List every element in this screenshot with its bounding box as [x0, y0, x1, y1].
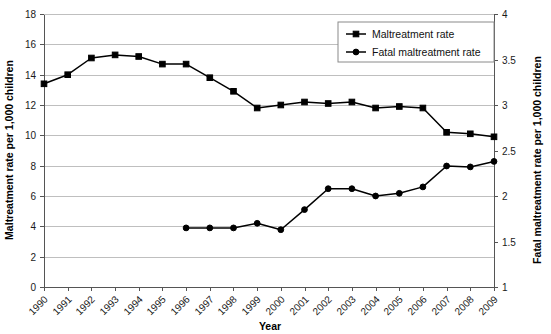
- y-tick-label: 4: [30, 221, 36, 232]
- data-point-marker: [325, 186, 331, 192]
- y-tick-label: 14: [25, 70, 37, 81]
- x-tick-label: 2002: [310, 293, 334, 317]
- y-tick-label: 8: [30, 161, 36, 172]
- data-point-marker: [373, 193, 379, 199]
- x-axis-title: Year: [259, 320, 281, 332]
- x-axis-ticks: 1990199119921993199419951996199719981999…: [26, 287, 500, 317]
- data-point-marker: [491, 134, 497, 140]
- y-tick-label: 18: [25, 9, 37, 20]
- legend-marker-circle: [353, 49, 359, 55]
- data-point-marker: [183, 61, 189, 67]
- y-axis-title: Maltreatment rate per 1,000 children: [3, 60, 15, 240]
- data-point-marker: [349, 186, 355, 192]
- x-tick-label: 2000: [263, 293, 287, 317]
- data-point-marker: [420, 105, 426, 111]
- legend-marker-square: [353, 31, 359, 37]
- chart-container: 024681012141618 11.522.533.54 1990199119…: [0, 0, 551, 334]
- data-point-marker: [491, 159, 497, 165]
- legend-label: Maltreatment rate: [372, 28, 454, 40]
- data-point-marker: [396, 190, 402, 196]
- data-series: [41, 52, 497, 233]
- data-point-marker: [112, 52, 118, 58]
- y2-tick-label: 2.5: [502, 146, 516, 157]
- data-point-marker: [254, 220, 260, 226]
- data-point-marker: [183, 225, 189, 231]
- y2-tick-label: 3.5: [502, 55, 516, 66]
- data-point-marker: [231, 225, 237, 231]
- data-point-marker: [207, 225, 213, 231]
- y-tick-label: 2: [30, 252, 36, 263]
- x-tick-label: 2007: [429, 293, 453, 317]
- data-point-marker: [420, 184, 426, 190]
- series-line-1: [44, 55, 494, 137]
- x-tick-label: 2008: [452, 293, 476, 317]
- x-tick-label: 2001: [287, 293, 311, 317]
- line-chart: 024681012141618 11.522.533.54 1990199119…: [0, 0, 551, 334]
- data-point-marker: [65, 72, 71, 78]
- y2-axis-title: Fatal maltreatment rate per 1,000 childr…: [531, 56, 543, 264]
- data-point-marker: [468, 131, 474, 137]
- x-tick-label: 1998: [215, 293, 239, 317]
- y2-tick-label: 1: [502, 282, 508, 293]
- series-line-2: [186, 161, 494, 229]
- data-point-marker: [397, 104, 403, 110]
- x-tick-label: 1993: [97, 293, 121, 317]
- data-point-marker: [302, 207, 308, 213]
- y2-tick-label: 3: [502, 100, 508, 111]
- data-point-marker: [89, 55, 95, 61]
- data-point-marker: [444, 130, 450, 136]
- y-tick-label: 10: [25, 130, 37, 141]
- data-point-marker: [325, 101, 331, 107]
- x-tick-label: 1999: [239, 293, 263, 317]
- data-point-marker: [231, 89, 237, 95]
- data-point-marker: [278, 102, 284, 108]
- data-point-marker: [207, 75, 213, 81]
- data-point-marker: [444, 163, 450, 169]
- x-tick-label: 2004: [358, 293, 382, 317]
- x-tick-label: 1994: [121, 293, 145, 317]
- legend-label: Fatal maltreatment rate: [372, 46, 481, 58]
- y2-axis-ticks: 11.522.533.54: [494, 9, 516, 293]
- y-tick-label: 12: [25, 100, 37, 111]
- data-point-marker: [278, 227, 284, 233]
- data-point-marker: [254, 105, 260, 111]
- data-point-marker: [160, 61, 166, 67]
- data-point-marker: [373, 105, 379, 111]
- x-tick-label: 1996: [168, 293, 192, 317]
- data-point-marker: [41, 81, 47, 87]
- data-point-marker: [136, 54, 142, 60]
- x-tick-label: 2009: [476, 293, 500, 317]
- x-tick-label: 2003: [334, 293, 358, 317]
- x-tick-label: 1992: [73, 293, 97, 317]
- data-point-marker: [349, 99, 355, 105]
- y2-tick-label: 1.5: [502, 237, 516, 248]
- x-tick-label: 1991: [50, 293, 74, 317]
- x-tick-label: 1990: [26, 293, 50, 317]
- data-point-marker: [302, 99, 308, 105]
- chart-legend: Maltreatment rateFatal maltreatment rate: [338, 22, 494, 62]
- data-point-marker: [467, 164, 473, 170]
- y2-tick-label: 4: [502, 9, 508, 20]
- x-tick-label: 1995: [144, 293, 168, 317]
- y2-tick-label: 2: [502, 191, 508, 202]
- x-tick-label: 2006: [405, 293, 429, 317]
- y-tick-label: 16: [25, 39, 37, 50]
- y-tick-label: 0: [30, 282, 36, 293]
- x-tick-label: 2005: [381, 293, 405, 317]
- y-axis-ticks: 024681012141618: [25, 9, 44, 293]
- x-tick-label: 1997: [192, 293, 216, 317]
- y-tick-label: 6: [30, 191, 36, 202]
